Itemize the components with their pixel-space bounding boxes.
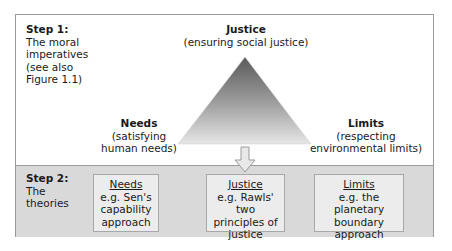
node-justice-sub: (ensuring social justice): [166, 36, 326, 49]
theory-needs-line: capability: [94, 203, 158, 216]
theory-needs-line: e.g. Sen's: [94, 191, 158, 204]
node-needs-sub: (satisfying: [94, 130, 184, 143]
step2-title: Step 2:: [26, 172, 69, 185]
step2-label: Step 2: The theories: [26, 172, 69, 210]
node-needs: Needs (satisfying human needs): [94, 117, 184, 155]
node-justice-name: Justice: [166, 23, 326, 36]
step2-section: Step 2: The theories Needs e.g. Sen's ca…: [16, 165, 433, 237]
theory-needs-name: Needs: [94, 178, 158, 191]
theory-justice-line: principles of: [207, 216, 284, 229]
theory-box-limits: Limits e.g. the planetary boundary appro…: [314, 174, 404, 232]
step2-desc-line: theories: [26, 197, 69, 210]
node-justice: Justice (ensuring social justice): [166, 23, 326, 48]
theory-needs-line: approach: [94, 216, 158, 229]
theory-box-needs: Needs e.g. Sen's capability approach: [93, 174, 159, 232]
theory-justice-line: e.g. Rawls' two: [207, 191, 284, 216]
theory-limits-line: e.g. the planetary: [315, 191, 403, 216]
theory-limits-line: boundary: [315, 216, 403, 229]
node-limits-sub: environmental limits): [301, 142, 431, 155]
node-needs-name: Needs: [94, 117, 184, 130]
theory-justice-name: Justice: [207, 178, 284, 191]
theory-box-justice: Justice e.g. Rawls' two principles of ju…: [206, 174, 285, 232]
diagram-frame: Step 1: The moral imperatives (see also …: [15, 14, 434, 237]
step1-section: Step 1: The moral imperatives (see also …: [16, 15, 433, 165]
theory-limits-name: Limits: [315, 178, 403, 191]
node-limits-name: Limits: [301, 117, 431, 130]
node-limits-sub: (respecting: [301, 130, 431, 143]
theory-justice-line: justice: [207, 228, 284, 241]
down-arrow-icon: [232, 146, 258, 174]
step2-desc-line: The: [26, 185, 69, 198]
theory-limits-line: approach: [315, 228, 403, 241]
node-needs-sub: human needs): [94, 142, 184, 155]
node-limits: Limits (respecting environmental limits): [301, 117, 431, 155]
